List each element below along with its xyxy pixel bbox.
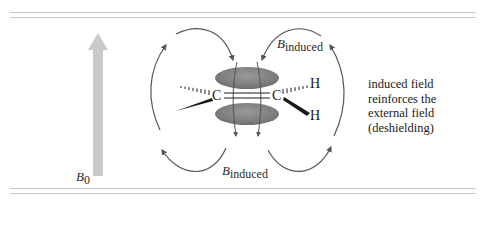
deshielding-annotation: induced field reinforces the external fi… (368, 77, 436, 135)
induced-field-bottom-label: Binduced (222, 164, 268, 180)
carbon-right-label: C (272, 89, 281, 103)
induced-field-top-label: Binduced (277, 37, 323, 53)
annotation-line-2: reinforces the (368, 92, 436, 107)
annotation-line-3: external field (368, 106, 436, 121)
carbon-left-label: C (212, 89, 221, 103)
hashed-bond-left (181, 86, 209, 95)
wedge-bond-left (176, 98, 213, 111)
pi-lobe-top (215, 67, 279, 89)
induced-field-bottom-symbol: B (222, 163, 230, 178)
annotation-line-1: induced field (368, 77, 436, 92)
hashed-bond-right (283, 85, 307, 94)
induced-field-top-symbol: B (277, 36, 285, 51)
external-field-symbol: B (76, 169, 84, 184)
hydrogen-bottom-label: H (310, 109, 320, 123)
induced-field-top-subscript: induced (285, 40, 323, 54)
hydrogen-top-label: H (310, 77, 320, 91)
pi-lobe-bottom (215, 103, 279, 125)
external-field-subscript: 0 (84, 173, 90, 187)
external-field-label: B0 (76, 170, 90, 186)
external-field-arrow-icon (88, 33, 108, 176)
wedge-bond-right (283, 97, 310, 116)
double-bond (224, 93, 270, 98)
induced-field-bottom-subscript: induced (230, 167, 268, 181)
annotation-line-4: (deshielding) (368, 121, 436, 136)
